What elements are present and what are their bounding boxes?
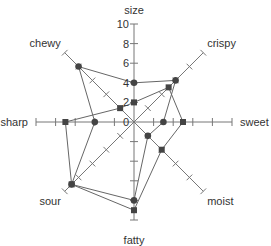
axis-label-fatty: fatty [124, 234, 145, 246]
data-point-square [62, 119, 68, 125]
data-point-circle [172, 77, 179, 84]
axis-moist [134, 122, 203, 191]
axis-label-sharp: sharp [0, 116, 28, 128]
data-point-circle [160, 119, 167, 126]
tick-label: 10 [117, 18, 129, 30]
tick-label: 2 [123, 96, 129, 108]
data-point-square [180, 119, 186, 125]
data-point-circle [75, 63, 82, 70]
tick-label: 8 [123, 38, 129, 50]
radar-chart: sizecrispysweetmoistfattysoursharpchewy0… [0, 0, 271, 246]
axis-sour [65, 122, 134, 191]
tick-label: 4 [123, 77, 129, 89]
data-point-circle [131, 80, 138, 87]
tick-label: 0 [123, 116, 129, 128]
data-point-circle [145, 133, 152, 140]
data-point-square [159, 147, 165, 153]
axis-label-chewy: chewy [30, 37, 62, 49]
tick-label: 6 [123, 57, 129, 69]
axis-label-size: size [124, 4, 144, 16]
data-point-circle [131, 197, 138, 204]
axis-label-crispy: crispy [207, 37, 236, 49]
data-point-square [131, 99, 137, 105]
data-point-square [69, 181, 75, 187]
axis-label-moist: moist [207, 195, 233, 207]
data-point-square [131, 207, 137, 213]
axis-label-sour: sour [39, 195, 61, 207]
data-point-circle [92, 119, 99, 126]
axis-label-sweet: sweet [240, 116, 269, 128]
data-point-square [166, 84, 172, 90]
